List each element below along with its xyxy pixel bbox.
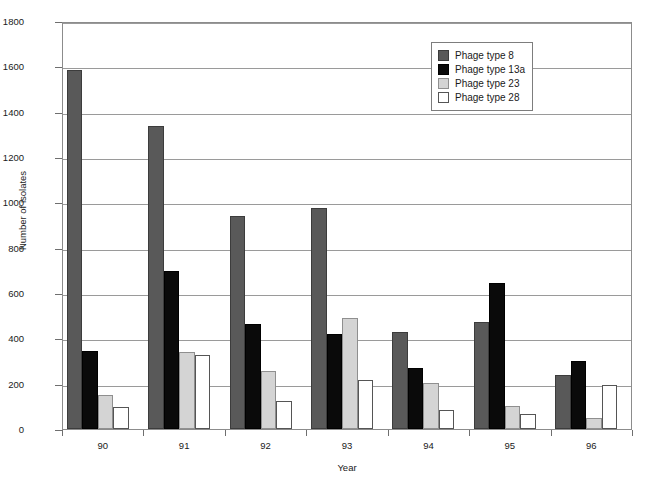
y-axis-tick-mark <box>55 249 62 250</box>
y-axis-tick-label: 800 <box>0 244 24 254</box>
x-axis-tick-label: 92 <box>236 440 296 451</box>
x-axis-tick-mark <box>225 430 226 436</box>
legend-item: Phage type 8 <box>438 49 525 62</box>
y-axis-tick-mark <box>55 22 62 23</box>
bar <box>474 322 490 429</box>
bar <box>571 361 587 429</box>
y-axis-tick-label: 0 <box>0 425 24 435</box>
plot-area <box>62 22 632 430</box>
bar <box>195 355 211 429</box>
legend: Phage type 8Phage type 13aPhage type 23P… <box>431 42 533 111</box>
y-axis-tick-mark <box>55 385 62 386</box>
y-axis-tick-label: 1400 <box>0 108 24 118</box>
y-axis-tick-label: 1600 <box>0 62 24 72</box>
bar <box>555 375 571 429</box>
legend-swatch-icon <box>438 64 449 75</box>
bar <box>261 371 277 429</box>
legend-swatch-icon <box>438 50 449 61</box>
bar <box>489 283 505 429</box>
bar-group <box>63 23 631 429</box>
y-axis-tick-mark <box>55 430 62 431</box>
y-axis-tick-label: 200 <box>0 380 24 390</box>
y-axis-tick-label: 600 <box>0 289 24 299</box>
legend-item: Phage type 23 <box>438 77 525 90</box>
figure-bar-chart: Number of isolates 020040060080010001200… <box>0 0 660 490</box>
x-axis-tick-mark <box>62 430 63 436</box>
x-axis-tick-label: 93 <box>317 440 377 451</box>
bar <box>392 332 408 429</box>
y-axis-tick-label: 1800 <box>0 17 24 27</box>
legend-item: Phage type 13a <box>438 63 525 76</box>
bar <box>98 395 114 429</box>
legend-item-label: Phage type 23 <box>455 78 520 89</box>
y-axis-tick-mark <box>55 203 62 204</box>
x-axis-tick-mark <box>632 430 633 436</box>
x-axis-tick-label: 96 <box>561 440 621 451</box>
bar <box>148 126 164 429</box>
x-axis-tick-label: 91 <box>154 440 214 451</box>
legend-swatch-icon <box>438 92 449 103</box>
bar <box>276 401 292 429</box>
bar <box>164 271 180 429</box>
bar <box>586 418 602 429</box>
bar <box>602 385 618 429</box>
bar <box>342 318 358 429</box>
y-axis-tick-label: 1200 <box>0 153 24 163</box>
legend-item-label: Phage type 8 <box>455 50 514 61</box>
bar <box>245 324 261 429</box>
y-axis-tick-mark <box>55 158 62 159</box>
legend-item-label: Phage type 13a <box>455 64 525 75</box>
bar <box>408 368 424 429</box>
x-axis-tick-label: 94 <box>398 440 458 451</box>
x-axis-tick-mark <box>306 430 307 436</box>
bar <box>311 208 327 429</box>
x-axis-tick-label: 90 <box>73 440 133 451</box>
bar <box>230 216 246 429</box>
bar <box>67 70 83 429</box>
bar <box>82 351 98 429</box>
bar <box>327 334 343 429</box>
legend-swatch-icon <box>438 78 449 89</box>
legend-item-label: Phage type 28 <box>455 92 520 103</box>
x-axis-title: Year <box>62 462 632 473</box>
y-axis-tick-label: 1000 <box>0 198 24 208</box>
y-axis-tick-mark <box>55 294 62 295</box>
bar <box>439 410 455 429</box>
y-axis-tick-mark <box>55 67 62 68</box>
legend-item: Phage type 28 <box>438 91 525 104</box>
y-axis-tick-label: 400 <box>0 334 24 344</box>
x-axis-tick-mark <box>469 430 470 436</box>
x-axis-tick-mark <box>388 430 389 436</box>
bar <box>179 352 195 429</box>
bar <box>520 414 536 429</box>
y-axis-tick-mark <box>55 113 62 114</box>
x-axis-tick-label: 95 <box>480 440 540 451</box>
bar <box>505 406 521 429</box>
bar <box>113 407 129 429</box>
x-axis-tick-mark <box>551 430 552 436</box>
bar <box>358 380 374 429</box>
y-axis-tick-mark <box>55 339 62 340</box>
x-axis-tick-mark <box>143 430 144 436</box>
bar <box>423 383 439 429</box>
